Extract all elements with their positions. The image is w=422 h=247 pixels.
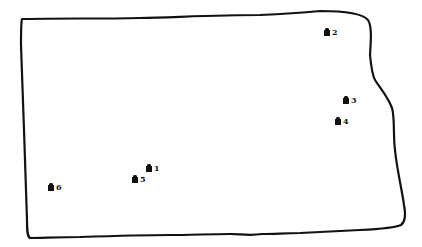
marker-label: 6 [56,182,62,192]
building-icon [343,96,349,104]
site-marker-5[interactable]: 5 [132,174,146,184]
building-icon [48,183,54,191]
building-icon [335,117,341,125]
marker-label: 1 [154,163,160,173]
site-marker-6[interactable]: 6 [48,182,62,192]
building-icon [132,175,138,183]
marker-label: 4 [343,116,349,126]
marker-label: 2 [332,27,338,37]
building-icon [146,164,152,172]
marker-label: 3 [351,95,357,105]
site-marker-3[interactable]: 3 [343,95,357,105]
map-outline [0,0,422,247]
site-marker-4[interactable]: 4 [335,116,349,126]
building-icon [324,28,330,36]
site-marker-2[interactable]: 2 [324,27,338,37]
marker-label: 5 [140,174,146,184]
site-marker-1[interactable]: 1 [146,163,160,173]
